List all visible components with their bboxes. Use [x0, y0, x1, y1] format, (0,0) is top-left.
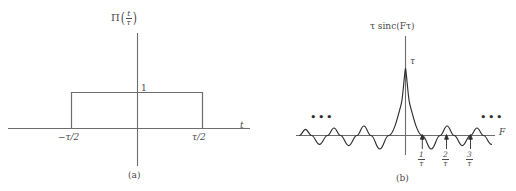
right-paren: ) — [133, 11, 137, 26]
panel-b-function-label: τ sinc(Fτ) — [370, 22, 414, 31]
panel-b-caption: (b) — [396, 173, 409, 183]
left-paren: ( — [121, 11, 125, 26]
panel-b-x-axis-label: F — [499, 128, 505, 137]
panel-b-tick-label-2: 2 τ — [442, 151, 449, 168]
figure-container: Π( t τ ) 1 −τ/2 τ/2 t (a) — [0, 0, 516, 191]
fraction-numerator: t — [126, 10, 132, 18]
panel-a-function-label: Π( t τ ) — [111, 10, 138, 27]
panel-a-tick-left-label: −τ/2 — [58, 133, 79, 142]
two-over-tau-fraction: 2 τ — [442, 151, 449, 168]
panel-a-x-axis-label: t — [240, 121, 244, 130]
panel-a-caption: (a) — [128, 170, 140, 180]
fraction-denominator: τ — [418, 159, 425, 168]
pi-symbol: Π — [111, 13, 120, 23]
panel-b-sinc-curve — [300, 69, 492, 150]
panel-b-sinc: τ sinc(Fτ) τ ••• ••• 1 τ 2 τ 3 τ — [258, 0, 516, 191]
fraction-denominator: τ — [442, 159, 449, 168]
panel-b-peak-label: τ — [410, 57, 415, 66]
panel-b-tick-label-1: 1 τ — [418, 151, 425, 168]
panel-b-ellipsis-left: ••• — [310, 112, 334, 123]
panel-a-tick-right-label: τ/2 — [192, 133, 206, 142]
panel-b-tick-label-3: 3 τ — [466, 151, 473, 168]
one-over-tau-fraction: 1 τ — [418, 151, 425, 168]
three-over-tau-fraction: 3 τ — [466, 151, 473, 168]
fraction-numerator: 1 — [418, 151, 425, 159]
panel-a-amplitude-label: 1 — [141, 84, 147, 93]
fraction-denominator: τ — [466, 159, 473, 168]
panel-a-plot — [0, 0, 258, 191]
panel-b-ellipsis-right: ••• — [480, 112, 504, 123]
t-over-tau-fraction: t τ — [126, 10, 132, 27]
fraction-denominator: τ — [126, 18, 132, 27]
panel-a-rect-pulse: Π( t τ ) 1 −τ/2 τ/2 t (a) — [0, 0, 258, 191]
fraction-numerator: 3 — [466, 151, 473, 159]
fraction-numerator: 2 — [442, 151, 449, 159]
